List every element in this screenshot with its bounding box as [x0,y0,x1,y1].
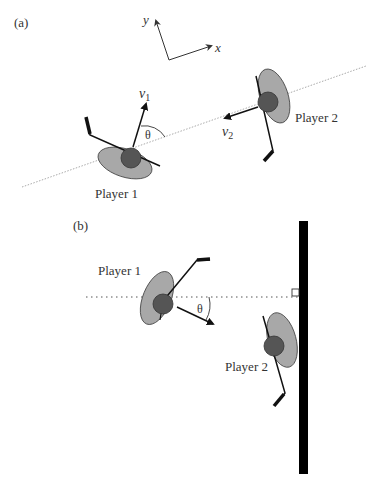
angle-arc-b [206,297,210,320]
player1-head [121,148,141,168]
player1-label-a: Player 1 [95,186,138,201]
velocity-arrow-b [177,307,213,324]
v2-label: v2 [222,124,233,141]
player1-label-b: Player 1 [98,263,141,278]
v1-label: v1 [139,86,150,103]
right-angle-marker [292,289,299,296]
line-of-centers [22,66,366,187]
player2-head [258,92,278,112]
y-axis-label: y [141,12,149,27]
x-axis-label: x [214,40,221,55]
player2-head [264,336,284,356]
player2-b: Player 2 [225,309,303,406]
player1-b: θ Player 1 [98,259,213,329]
collision-diagram: (a) y x v1 θ Player 1 [0,0,381,483]
player2-label-a: Player 2 [295,110,338,125]
panel-a-label: (a) [14,15,28,30]
player1-head [153,294,173,314]
player1-a: v1 θ Player 1 [86,86,165,201]
axes-icon: y x [141,12,221,60]
player2-a: v2 Player 2 [222,65,338,161]
panel-b-label: (b) [73,218,88,233]
theta-label-a: θ [145,128,151,142]
panel-b: (b) θ Player 1 Pla [73,218,308,474]
theta-label-b: θ [197,302,203,316]
velocity-arrow-2 [225,107,258,118]
player2-label-b: Player 2 [225,359,268,374]
panel-a: (a) y x v1 θ Player 1 [14,12,366,201]
boards-wall [299,221,308,474]
